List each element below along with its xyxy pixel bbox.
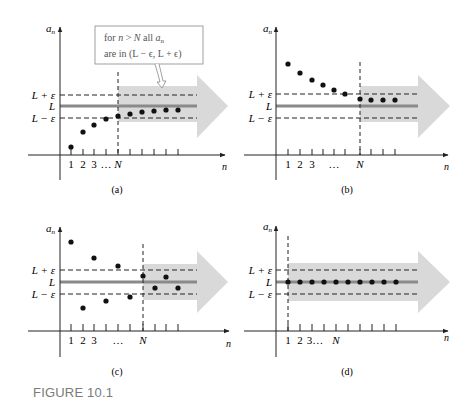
upper-bound-label: L + ε bbox=[31, 264, 56, 276]
svg-text:3: 3 bbox=[91, 334, 97, 346]
y-axis-label: an bbox=[263, 22, 273, 36]
svg-text:N: N bbox=[113, 158, 122, 170]
x-axis-label: n bbox=[222, 161, 227, 172]
svg-text:2: 2 bbox=[297, 158, 303, 170]
svg-text:3…: 3… bbox=[307, 334, 324, 346]
tick-marks bbox=[71, 149, 178, 155]
svg-text:N: N bbox=[355, 158, 364, 170]
svg-text:…: … bbox=[113, 334, 124, 346]
tick-labels: 1 2 3… N bbox=[285, 334, 340, 346]
upper-bound-label: L + ε bbox=[248, 88, 273, 100]
svg-text:1: 1 bbox=[68, 158, 74, 170]
x-axis-label: n bbox=[444, 161, 449, 172]
svg-text:1: 1 bbox=[68, 334, 74, 346]
limit-label: L bbox=[265, 276, 272, 288]
panel-label: (a) bbox=[111, 184, 122, 196]
svg-text:3: 3 bbox=[91, 158, 97, 170]
figure-caption: FIGURE 10.1 bbox=[33, 385, 113, 400]
lower-bound-label: L − ε bbox=[31, 288, 56, 300]
upper-bound-label: L + ε bbox=[248, 264, 273, 276]
x-axis-label: n bbox=[226, 338, 231, 349]
svg-text:are in (L − ϵ, L + ϵ): are in (L − ϵ, L + ϵ) bbox=[104, 48, 182, 60]
panel-label: (b) bbox=[341, 184, 353, 196]
tick-marks bbox=[71, 324, 178, 331]
tick-labels: 1 2 3 … N bbox=[68, 334, 147, 346]
panel-c: an n L + ε L L − ε 1 2 3 … N (c) bbox=[28, 222, 231, 378]
callout-pointer-icon bbox=[155, 64, 166, 88]
panel-d: an n L + ε L L − ε 1 2 3… N (d) bbox=[244, 220, 450, 378]
svg-text:1: 1 bbox=[285, 158, 291, 170]
panel-b: an n L + ε L L − ε 1 2 3 … N (b) bbox=[244, 22, 450, 196]
svg-text:2: 2 bbox=[80, 158, 86, 170]
y-axis-label: an bbox=[263, 220, 273, 234]
lower-bound-label: L − ε bbox=[248, 288, 273, 300]
svg-text:N: N bbox=[138, 334, 147, 346]
tick-labels: 1 2 3 … N bbox=[68, 158, 122, 170]
svg-text:2: 2 bbox=[80, 334, 86, 346]
lower-bound-label: L − ε bbox=[248, 112, 273, 124]
panel-label: (d) bbox=[341, 366, 353, 378]
callout-box: for n > N all an are in (L − ϵ, L + ϵ) bbox=[95, 26, 203, 88]
tick-marks bbox=[288, 324, 396, 331]
svg-text:N: N bbox=[331, 334, 340, 346]
limit-label: L bbox=[48, 100, 55, 112]
limit-label: L bbox=[265, 100, 272, 112]
y-axis-label: an bbox=[46, 22, 56, 36]
y-axis-label: an bbox=[46, 222, 56, 236]
svg-text:2: 2 bbox=[297, 334, 303, 346]
tick-labels: 1 2 3 … N bbox=[285, 158, 364, 170]
svg-text:1: 1 bbox=[285, 334, 291, 346]
svg-text:3: 3 bbox=[309, 158, 315, 170]
panel-label: (c) bbox=[111, 366, 122, 378]
x-axis-label: n bbox=[444, 332, 449, 343]
figure-canvas: an n L + ε L L − ε 1 2 3 … N (a) for n >… bbox=[0, 0, 474, 415]
limit-label: L bbox=[48, 276, 55, 288]
tick-marks bbox=[288, 149, 395, 155]
panel-a: an n L + ε L L − ε 1 2 3 … N (a) for n >… bbox=[28, 22, 228, 196]
svg-text:…: … bbox=[101, 158, 112, 170]
lower-bound-label: L − ε bbox=[31, 112, 56, 124]
svg-text:…: … bbox=[329, 158, 340, 170]
